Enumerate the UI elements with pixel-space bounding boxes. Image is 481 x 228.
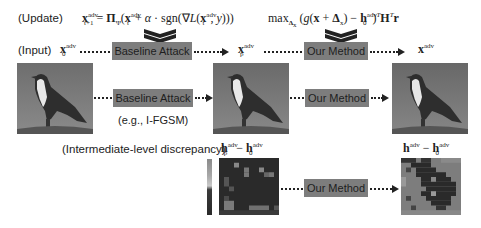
discrepancy-label: (Intermediate-level discrepancy) <box>62 143 226 155</box>
right-heatmap-title: hadv − hadv0 <box>403 141 439 157</box>
colorbar <box>207 159 212 215</box>
our-method-box: Our Method <box>304 179 368 197</box>
connector <box>194 51 222 53</box>
connector <box>94 97 112 99</box>
arrow-right-icon <box>222 48 229 56</box>
connector <box>80 51 110 53</box>
connector <box>264 51 302 53</box>
arrow-right-icon <box>392 185 399 193</box>
connector <box>290 97 304 99</box>
arrow-right-icon <box>206 94 213 102</box>
chevron-down-icon <box>143 27 177 43</box>
input-symbol: xadv0 <box>60 42 66 58</box>
update-label: (Update) <box>18 12 63 24</box>
baseline-example: (e.g., I-FGSM) <box>118 114 188 126</box>
baseline-attack-box: Baseline Attack <box>113 89 193 107</box>
chevron-down-icon <box>324 27 358 43</box>
input-label: (Input) <box>18 44 51 56</box>
baseline-attack-box: Baseline Attack <box>112 42 192 60</box>
intermediate-image <box>213 63 289 134</box>
input-image <box>17 63 93 134</box>
our-method-box: Our Method <box>304 42 368 60</box>
right-heatmap <box>401 158 461 215</box>
output-symbol: xadv <box>418 42 434 57</box>
our-method-box: Our Method <box>305 89 369 107</box>
left-heatmap-title: hadvp − hadv0 <box>221 141 252 157</box>
arrow-right-icon <box>398 48 405 56</box>
connector <box>370 188 392 190</box>
connector <box>370 51 398 53</box>
output-image <box>392 63 468 134</box>
baseline-update-formula: xadvt+1 = ΠΨ(xadvt + α · sgn(∇L(xadvt , … <box>82 11 234 27</box>
connector <box>281 188 303 190</box>
left-heatmap <box>219 158 279 215</box>
intermediate-symbol: xadvp <box>238 42 244 58</box>
arrow-right-icon <box>382 94 389 102</box>
